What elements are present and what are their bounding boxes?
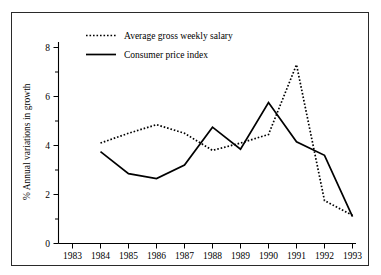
x-tick-label-1985: 1985 — [119, 251, 138, 261]
y-tick-label-8: 8 — [45, 43, 50, 53]
x-tick-label-1992: 1992 — [315, 251, 334, 261]
x-tick-label-1984: 1984 — [91, 251, 110, 261]
x-tick-label-1983: 1983 — [63, 251, 82, 261]
legend-label-average-gross-weekly-salary: Average gross weekly salary — [124, 31, 233, 41]
x-axis-ticks — [73, 244, 353, 249]
y-tick-label-0: 0 — [45, 239, 50, 249]
x-tick-label-1993: 1993 — [343, 251, 362, 261]
line-chart: 0 2 4 6 8 % Annual variations in growth … — [0, 0, 381, 275]
x-tick-label-1990: 1990 — [259, 251, 278, 261]
y-tick-label-2: 2 — [45, 190, 50, 200]
x-tick-label-1986: 1986 — [147, 251, 166, 261]
y-axis-tick-labels: 0 2 4 6 8 — [45, 43, 50, 249]
x-tick-label-1991: 1991 — [287, 251, 306, 261]
x-tick-label-1987: 1987 — [175, 251, 194, 261]
x-tick-label-1989: 1989 — [231, 251, 250, 261]
chart-legend: Average gross weekly salary Consumer pri… — [86, 31, 233, 60]
series-line-consumer-price-index — [101, 103, 353, 217]
legend-label-consumer-price-index: Consumer price index — [124, 50, 208, 60]
y-tick-label-6: 6 — [45, 92, 50, 102]
y-axis-title: % Annual variations in growth — [22, 83, 32, 200]
x-axis-tick-labels: 1983 1984 1985 1986 1987 1988 1989 1990 … — [63, 251, 362, 261]
x-tick-label-1988: 1988 — [203, 251, 222, 261]
y-tick-label-4: 4 — [45, 141, 50, 151]
y-axis-ticks — [54, 48, 59, 244]
series-line-average-gross-weekly-salary — [101, 65, 353, 216]
